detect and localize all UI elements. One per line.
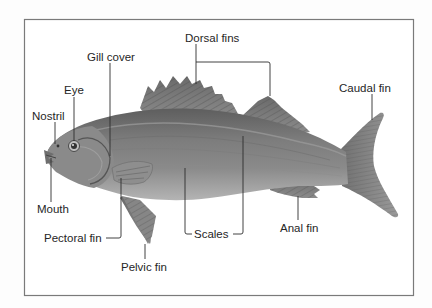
label-caudal-fin: Caudal fin (339, 82, 391, 94)
diagram-canvas: Dorsal fins Gill cover Eye Nostril Cauda… (0, 0, 432, 308)
label-pelvic-fin: Pelvic fin (121, 261, 167, 273)
label-dorsal-fins: Dorsal fins (185, 32, 240, 44)
label-gill-cover: Gill cover (87, 51, 135, 63)
fish-eye (69, 141, 80, 152)
fish-anatomy-diagram: Dorsal fins Gill cover Eye Nostril Cauda… (0, 0, 432, 308)
label-anal-fin: Anal fin (280, 222, 318, 234)
label-pectoral-fin: Pectoral fin (44, 232, 102, 244)
label-scales: Scales (194, 228, 229, 240)
label-eye: Eye (64, 84, 84, 96)
label-mouth: Mouth (37, 203, 69, 215)
label-nostril: Nostril (32, 110, 65, 122)
